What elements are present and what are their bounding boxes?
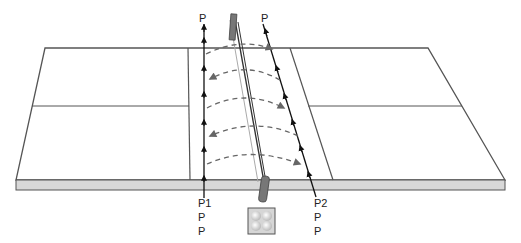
court-diagram bbox=[0, 0, 521, 243]
ball-basket bbox=[248, 208, 275, 234]
net-post-top bbox=[229, 14, 237, 40]
player-label-top-right: P bbox=[261, 13, 268, 24]
court bbox=[16, 48, 505, 190]
player-label-queue-left-2: P bbox=[198, 226, 205, 237]
player-label-p2: P2 bbox=[314, 198, 327, 209]
ball-icon bbox=[262, 211, 272, 221]
ball-icon bbox=[251, 221, 261, 231]
ball-icon bbox=[262, 221, 272, 231]
player-label-p1: P1 bbox=[198, 198, 211, 209]
player-label-queue-right-1: P bbox=[314, 212, 321, 223]
basket-box bbox=[248, 208, 275, 234]
player-label-queue-right-2: P bbox=[314, 226, 321, 237]
player-label-top-left: P bbox=[199, 13, 206, 24]
player-label-queue-left-1: P bbox=[198, 212, 205, 223]
ball-icon bbox=[251, 211, 261, 221]
